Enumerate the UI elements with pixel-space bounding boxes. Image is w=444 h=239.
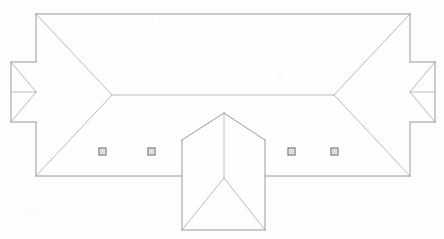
right-wing-hip-roof: [410, 62, 435, 122]
vent-marker[interactable]: [331, 148, 338, 155]
vent-marker[interactable]: [99, 148, 106, 155]
vent-marker[interactable]: [288, 148, 295, 155]
roof-plan-drawing: [0, 0, 444, 239]
left-wing-hip-roof: [11, 62, 36, 122]
roof-plan-svg: [0, 0, 444, 239]
vent-marker[interactable]: [148, 148, 155, 155]
